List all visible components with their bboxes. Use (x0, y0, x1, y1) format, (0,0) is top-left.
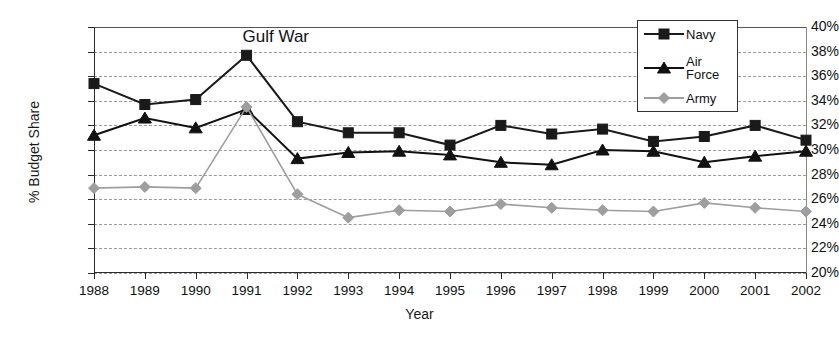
legend-item-army[interactable]: Army (642, 91, 716, 105)
x-tick-mark (806, 273, 807, 279)
legend-item-air-force[interactable]: Air Force (642, 55, 719, 81)
y-tick-label: 32% (755, 116, 839, 132)
gridline (94, 199, 806, 200)
y-axis-title: % Budget Share (26, 62, 50, 242)
x-tick-mark (755, 273, 756, 279)
y-tick-label: 34% (755, 92, 839, 108)
y-tick-label: 24% (755, 215, 839, 231)
x-tick-mark (501, 273, 502, 279)
x-tick-mark (94, 273, 95, 279)
x-tick-mark (552, 273, 553, 279)
x-tick-mark (450, 273, 451, 279)
x-tick-mark (603, 273, 604, 279)
chart-container: % Budget Share 40%38%36%34%32%30%28%26%2… (0, 0, 839, 338)
gridline (94, 125, 806, 126)
y-tick-mark (88, 52, 95, 53)
x-tick-mark (247, 273, 248, 279)
chart-legend[interactable]: NavyAir ForceArmy (637, 20, 738, 112)
legend-label: Air Force (686, 55, 719, 81)
legend-marker-square-icon (642, 27, 686, 41)
x-tick-mark (653, 273, 654, 279)
y-tick-label: 20% (755, 264, 839, 280)
y-tick-mark (88, 27, 95, 28)
y-tick-label: 36% (755, 67, 839, 83)
legend-marker-triangle-icon (642, 61, 686, 75)
legend-label: Navy (686, 28, 716, 41)
gridline (94, 224, 806, 225)
y-tick-mark (88, 175, 95, 176)
y-tick-label: 22% (755, 239, 839, 255)
y-tick-label: 28% (755, 166, 839, 182)
y-tick-mark (88, 150, 95, 151)
y-tick-mark (88, 76, 95, 77)
y-tick-mark (88, 224, 95, 225)
y-tick-label: 30% (755, 141, 839, 157)
y-tick-label: 38% (755, 43, 839, 59)
gridline (94, 175, 806, 176)
x-tick-mark (348, 273, 349, 279)
x-axis-title: Year (0, 306, 839, 322)
y-tick-label: 26% (755, 190, 839, 206)
y-tick-mark (88, 248, 95, 249)
y-tick-mark (88, 199, 95, 200)
gridline (94, 150, 806, 151)
y-tick-mark (88, 101, 95, 102)
legend-item-navy[interactable]: Navy (642, 27, 716, 41)
legend-marker-diamond-icon (642, 91, 686, 105)
x-tick-mark (399, 273, 400, 279)
y-tick-label: 40% (755, 18, 839, 34)
x-tick-mark (297, 273, 298, 279)
y-tick-mark (88, 125, 95, 126)
gridline (94, 248, 806, 249)
x-tick-label: 2002 (776, 283, 836, 298)
x-tick-mark (196, 273, 197, 279)
x-tick-mark (145, 273, 146, 279)
legend-label: Army (686, 92, 716, 105)
chart-annotation: Gulf War (243, 27, 309, 47)
x-tick-mark (704, 273, 705, 279)
